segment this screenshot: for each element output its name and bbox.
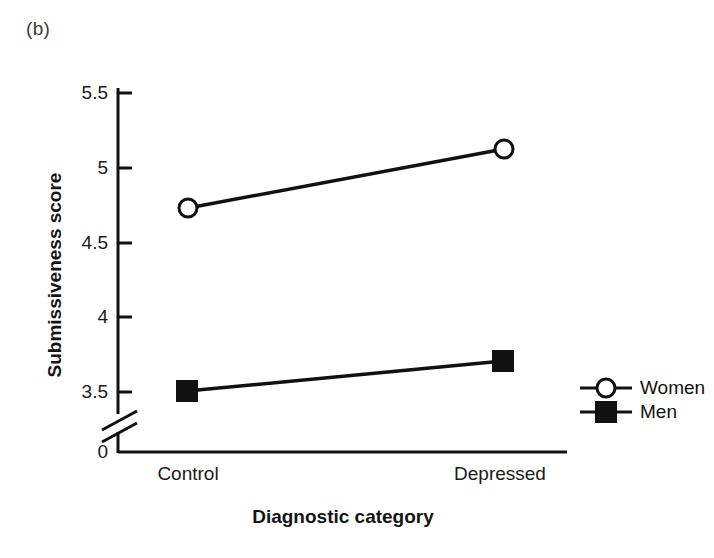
figure-panel-b: (b) Submissiveness score Diagnostic cate… (0, 0, 714, 558)
series-line-men (187, 361, 503, 391)
data-point-men-depressed (493, 351, 513, 371)
series-line-women (188, 149, 504, 208)
open-circle-icon (597, 379, 615, 397)
legend-marker-women (580, 379, 632, 397)
data-point-men-control (177, 381, 197, 401)
filled-square-icon (596, 402, 616, 422)
legend-marker-men (580, 402, 632, 422)
data-point-women-control (179, 199, 197, 217)
data-point-women-depressed (495, 140, 513, 158)
plot-canvas (0, 0, 714, 558)
